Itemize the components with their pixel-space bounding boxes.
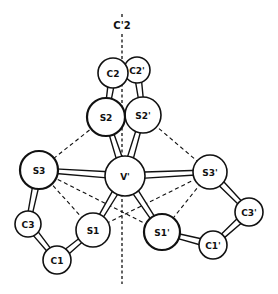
atom-label: S1: [87, 226, 100, 236]
atom-label: C1': [205, 241, 221, 251]
atom-C3: C3: [15, 211, 41, 237]
atom-S1p: S1': [144, 214, 180, 250]
axis-label: C'2: [113, 20, 130, 31]
atom-label: S2': [135, 111, 151, 121]
atom-label: V': [120, 172, 130, 182]
atom-S3: S3: [20, 151, 58, 189]
atom-label: C2: [107, 69, 120, 79]
atom-S1: S1: [76, 213, 110, 247]
molecular-structure-diagram: C'2 C2'C2S2'S2S3S3'V'C3'C3S1S1'C1'C1: [0, 0, 278, 294]
atom-label: S2: [100, 113, 113, 123]
atom-S2p: S2': [125, 97, 161, 133]
atom-S3p: S3': [193, 155, 227, 189]
atom-C2: C2: [98, 58, 128, 88]
atom-label: C1: [51, 256, 64, 266]
atom-C3p: C3': [235, 198, 263, 226]
atom-label: C2': [129, 66, 145, 76]
atom-label: S1': [154, 228, 170, 238]
bond-V-S3p: [137, 170, 200, 178]
atom-S2: S2: [87, 98, 125, 136]
atom-label: S3': [202, 168, 218, 178]
atom-label: C3: [22, 220, 35, 230]
atom-C1: C1: [43, 246, 71, 274]
bond-V-S3: [50, 169, 113, 179]
atom-V: V': [105, 156, 145, 196]
atom-C1p: C1': [199, 231, 227, 259]
atom-label: S3: [33, 166, 46, 176]
atom-label: C3': [241, 208, 257, 218]
